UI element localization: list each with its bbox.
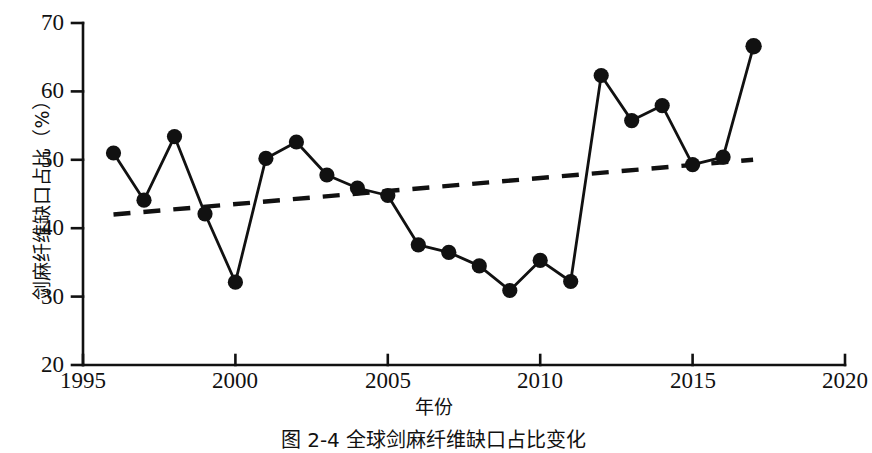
y-axis-title: 剑麻纤维缺口占比（%） <box>27 36 54 356</box>
data-point <box>411 237 426 252</box>
data-point <box>563 274 578 289</box>
x-axis-ticks <box>83 355 845 365</box>
data-point <box>472 258 487 273</box>
x-tick-label-2015: 2015 <box>648 369 738 392</box>
data-point <box>167 129 182 144</box>
data-point <box>106 145 121 160</box>
data-point <box>745 38 761 54</box>
x-tick-label-2005: 2005 <box>343 369 433 392</box>
data-point <box>533 253 548 268</box>
data-point <box>716 150 731 165</box>
data-point <box>502 283 517 298</box>
data-point <box>136 193 151 208</box>
data-point <box>380 188 395 203</box>
data-point <box>197 206 212 221</box>
trend-line-dashed <box>114 160 754 215</box>
data-point <box>319 167 334 182</box>
x-tick-label-2010: 2010 <box>495 369 585 392</box>
x-tick-label-2000: 2000 <box>190 369 280 392</box>
x-tick-label-1995: 1995 <box>38 369 128 392</box>
figure-caption: 图 2-4 全球剑麻纤维缺口占比变化 <box>0 424 867 453</box>
y-tick-label-70: 70 <box>8 11 64 34</box>
x-axis-title: 年份 <box>0 392 867 419</box>
x-tick-label-2020: 2020 <box>800 369 872 392</box>
data-point <box>685 157 700 172</box>
data-point <box>624 113 639 128</box>
data-point <box>441 245 456 260</box>
data-point <box>289 134 304 149</box>
data-point <box>228 275 243 290</box>
y-axis-ticks <box>72 23 83 365</box>
data-point <box>655 98 670 113</box>
data-point <box>594 68 609 83</box>
data-point <box>258 151 273 166</box>
data-point <box>350 180 365 195</box>
